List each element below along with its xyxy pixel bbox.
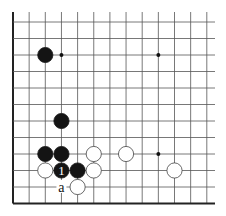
- stone-move-number: 1: [58, 163, 65, 178]
- star-point-icon: [156, 53, 160, 57]
- white-stone-icon: [38, 163, 53, 178]
- star-point-icon: [156, 152, 160, 156]
- point-label: a: [58, 180, 65, 195]
- star-point-icon: [59, 53, 63, 57]
- black-stone-icon: [54, 113, 69, 128]
- white-stone-icon: [86, 146, 101, 161]
- point-labels: a: [56, 180, 66, 195]
- white-stone-icon: [70, 179, 85, 194]
- black-stone-icon: [70, 163, 85, 178]
- white-stone-icon: [86, 163, 101, 178]
- white-stone-icon: [167, 163, 182, 178]
- black-stone-icon: [54, 146, 69, 161]
- white-stone-icon: [118, 146, 133, 161]
- go-board: 1 a: [0, 0, 226, 216]
- black-stone-icon: [38, 146, 53, 161]
- black-stone-icon: [38, 47, 53, 62]
